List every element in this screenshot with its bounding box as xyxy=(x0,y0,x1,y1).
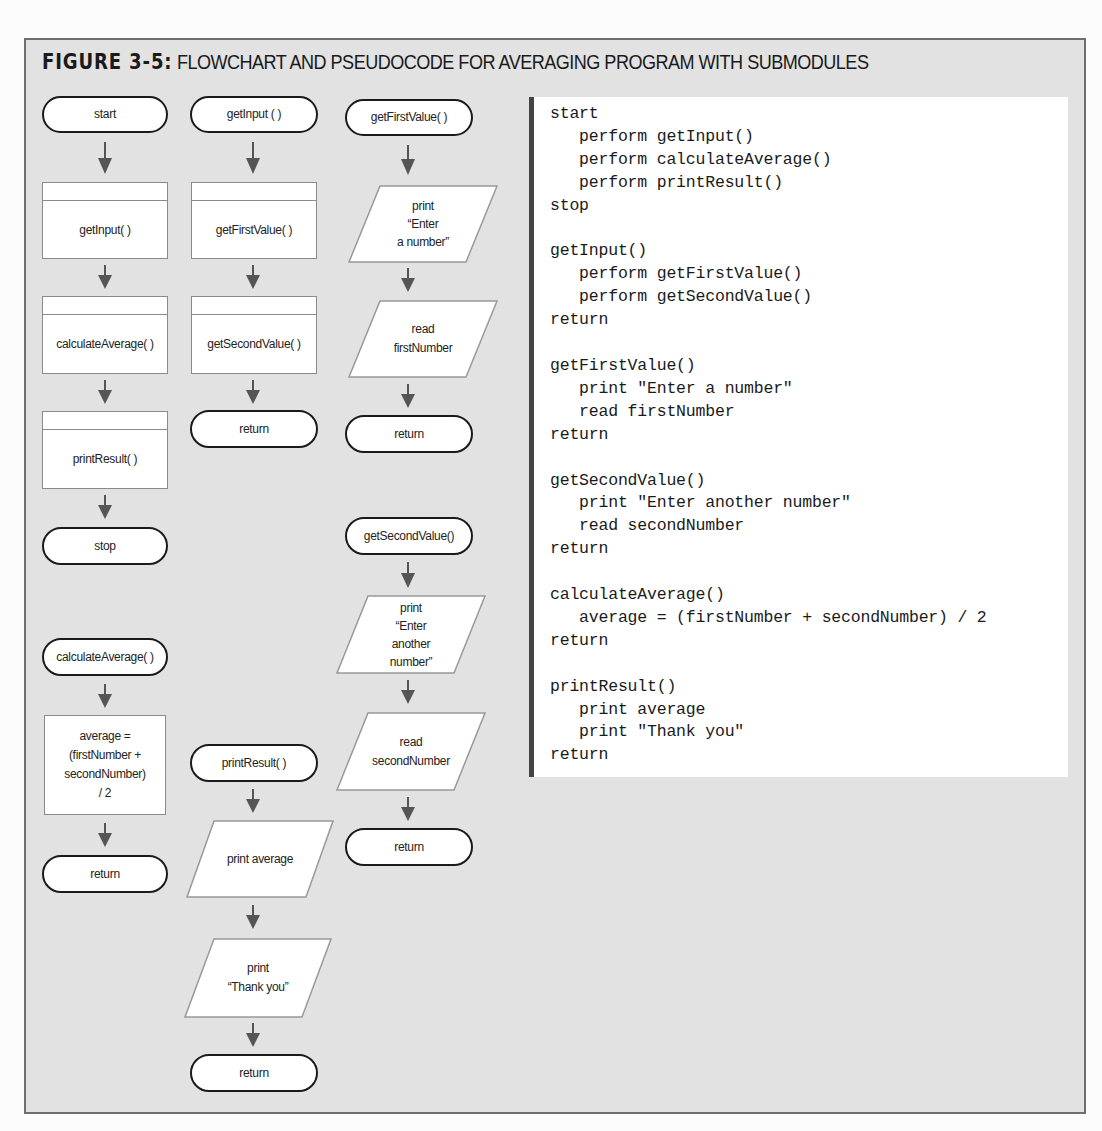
arrow-down-icon xyxy=(98,142,112,174)
figure-label: FIGURE 3-5: xyxy=(42,50,172,74)
pseudocode-text: start perform getInput() perform calcula… xyxy=(550,103,1068,767)
predefined-process-getinput: getInput( ) xyxy=(42,182,168,259)
io-print-enter-another-number: print “Enter another number” xyxy=(336,595,486,674)
arrow-down-icon xyxy=(401,562,415,588)
io-print-enter-number: print “Enter a number” xyxy=(348,185,498,263)
terminal-getsecondvalue: getSecondValue() xyxy=(345,517,473,555)
figure-title: FIGURE 3-5: FLOWCHART AND PSEUDOCODE FOR… xyxy=(42,50,868,74)
terminal-return: return xyxy=(190,410,318,448)
terminal-stop: stop xyxy=(42,527,168,565)
arrow-down-icon xyxy=(246,142,260,174)
terminal-calculateaverage: calculateAverage( ) xyxy=(42,638,168,676)
terminal-return: return xyxy=(345,828,473,866)
arrow-down-icon xyxy=(98,265,112,289)
io-print-thank-you: print “Thank you” xyxy=(184,938,332,1018)
terminal-getfirstvalue: getFirstValue( ) xyxy=(345,99,473,136)
arrow-down-icon xyxy=(98,495,112,519)
terminal-return: return xyxy=(42,855,168,893)
io-read-secondnumber: read secondNumber xyxy=(336,712,486,791)
predefined-process-calculateaverage: calculateAverage( ) xyxy=(42,296,168,374)
io-read-firstnumber: read firstNumber xyxy=(348,300,498,378)
pseudocode-panel: start perform getInput() perform calcula… xyxy=(529,97,1068,777)
arrow-down-icon xyxy=(246,265,260,289)
process-average: average = (firstNumber + secondNumber) /… xyxy=(44,715,166,815)
terminal-printresult: printResult( ) xyxy=(190,744,318,782)
arrow-down-icon xyxy=(401,145,415,175)
arrow-down-icon xyxy=(98,380,112,404)
arrow-down-icon xyxy=(246,905,260,929)
arrow-down-icon xyxy=(401,268,415,292)
arrow-down-icon xyxy=(98,684,112,708)
arrow-down-icon xyxy=(401,680,415,704)
terminal-start: start xyxy=(42,96,168,133)
terminal-return: return xyxy=(345,415,473,453)
io-print-average: print average xyxy=(186,820,334,898)
terminal-return: return xyxy=(190,1054,318,1092)
arrow-down-icon xyxy=(246,789,260,813)
arrow-down-icon xyxy=(98,823,112,847)
terminal-getinput: getInput ( ) xyxy=(190,96,318,133)
figure-caption: FLOWCHART AND PSEUDOCODE FOR AVERAGING P… xyxy=(177,50,869,73)
predefined-process-getfirstvalue: getFirstValue( ) xyxy=(191,182,317,259)
predefined-process-printresult: printResult( ) xyxy=(42,411,168,489)
arrow-down-icon xyxy=(401,797,415,821)
arrow-down-icon xyxy=(246,380,260,404)
arrow-down-icon xyxy=(401,384,415,408)
arrow-down-icon xyxy=(246,1023,260,1047)
predefined-process-getsecondvalue: getSecondValue( ) xyxy=(191,296,317,374)
